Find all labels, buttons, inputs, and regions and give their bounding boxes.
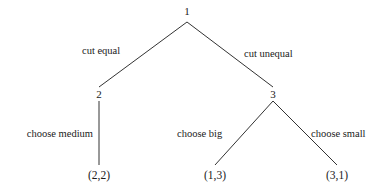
node-right-player-2: 3 [270,89,276,100]
edge-label-choose-small: choose small [311,129,366,140]
terminal-payoff-1-3: (1,3) [204,170,226,182]
edge-choose-big [215,101,273,165]
terminal-payoff-2-2: (2,2) [88,170,110,182]
tree-edges-svg [0,0,392,192]
edge-label-cut-equal: cut equal [82,46,120,57]
node-left-player-2: 2 [96,89,102,100]
game-tree-diagram: 1 2 3 (2,2) (1,3) (3,1) cut equal cut un… [0,0,392,192]
edge-label-cut-unequal: cut unequal [244,49,293,60]
edge-label-choose-big: choose big [177,129,222,140]
terminal-payoff-3-1: (3,1) [326,170,348,182]
edge-label-choose-medium: choose medium [27,129,93,140]
node-root-player-1: 1 [184,6,190,17]
